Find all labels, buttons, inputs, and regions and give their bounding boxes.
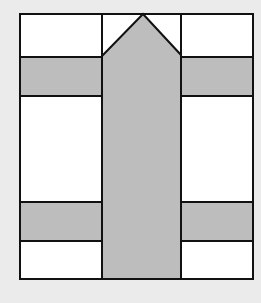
- quilt-block-diagram: [0, 0, 261, 303]
- center-arrow: [102, 14, 181, 279]
- right-bottom-band: [181, 202, 253, 241]
- right-top-band: [181, 57, 253, 96]
- left-top-band: [20, 57, 102, 96]
- left-bottom-band: [20, 202, 102, 241]
